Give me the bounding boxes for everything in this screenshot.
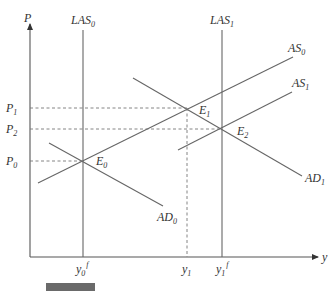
- e2-label: E2: [236, 124, 248, 140]
- p1-label: P1: [5, 101, 17, 117]
- y1-label: y1: [181, 262, 191, 278]
- ad0-label: AD0: [156, 210, 177, 226]
- as1-label: AS1: [291, 76, 309, 92]
- ad1-curve: [133, 78, 302, 176]
- las0-label: LAS0: [70, 13, 95, 29]
- p0-label: P0: [5, 154, 17, 170]
- ad1-label: AD1: [304, 171, 325, 187]
- as0-curve: [38, 57, 293, 183]
- ad0-curve: [49, 143, 163, 206]
- caption-text: [105, 281, 305, 289]
- y1f-label: y1f: [215, 260, 230, 278]
- output-axis-label: y: [321, 250, 328, 264]
- e0-label: E0: [95, 154, 107, 170]
- e1-label: E1: [198, 103, 210, 119]
- as0-label: AS0: [287, 41, 305, 57]
- as1-curve: [178, 92, 292, 150]
- p2-label: P2: [5, 122, 17, 138]
- price-axis-label: P: [23, 11, 32, 25]
- caption-figure-tag: [46, 283, 95, 291]
- y0f-label: y0f: [75, 260, 90, 278]
- las1-label: LAS1: [209, 13, 234, 29]
